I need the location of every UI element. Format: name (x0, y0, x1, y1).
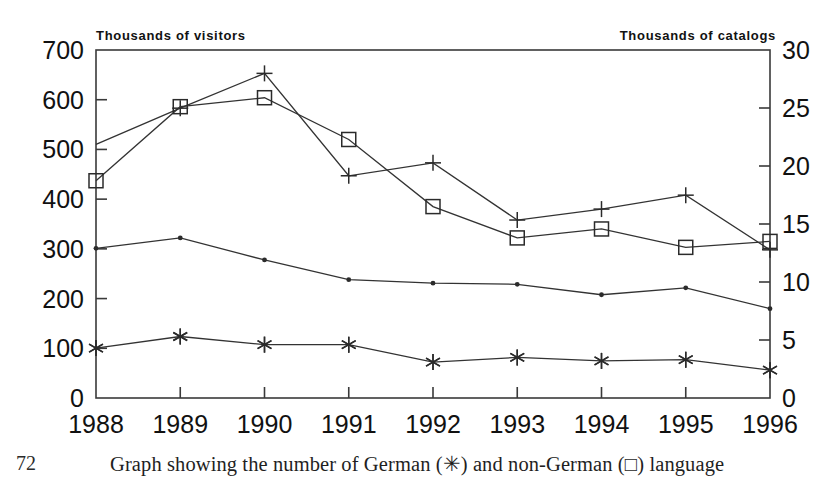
x-tick-label-1989: 1989 (152, 412, 208, 437)
marker-catalogs-dot-1992 (431, 281, 436, 286)
right-tick-label-15: 15 (782, 212, 810, 237)
x-tick-label-1988: 1988 (68, 412, 124, 437)
marker-visitors-plus-1994 (594, 201, 610, 217)
marker-catalogs-dot-1996 (768, 306, 773, 311)
figure-caption: 72 Graph showing the number of German (✳… (0, 452, 838, 483)
marker-catalogs-dot-1994 (599, 292, 604, 297)
right-tick-label-0: 0 (782, 386, 796, 411)
data-series-layer (89, 65, 778, 378)
x-tick-label-1992: 1992 (405, 412, 461, 437)
left-tick-label-700: 700 (42, 38, 84, 63)
x-tick-label-1993: 1993 (489, 412, 545, 437)
left-axis-title: Thousands of visitors (96, 28, 246, 43)
series-catalogs-dot (94, 236, 773, 312)
marker-visitors-plus-1992 (425, 155, 441, 171)
marker-catalogs-dot-1991 (346, 277, 351, 282)
marker-catalogs-dot-1988 (94, 246, 99, 251)
left-axis-ticks (96, 100, 107, 349)
right-axis-title: Thousands of catalogs (620, 28, 776, 43)
x-tick-label-1995: 1995 (658, 412, 714, 437)
figure-container: Thousands of visitors Thousands of catal… (0, 0, 838, 483)
right-axis-ticks (759, 108, 770, 340)
series-visitors-square (89, 91, 777, 255)
marker-catalogs-dot-1990 (262, 258, 267, 263)
marker-visitors-plus-1990 (257, 65, 273, 81)
x-axis-ticks (180, 387, 686, 398)
x-tick-label-1991: 1991 (321, 412, 377, 437)
series-catalogs-asterisk (89, 329, 777, 379)
marker-catalogs-dot-1989 (178, 236, 183, 241)
right-tick-label-10: 10 (782, 270, 810, 295)
right-tick-label-30: 30 (782, 38, 810, 63)
marker-visitors-plus-1991 (341, 168, 357, 184)
plot-frame (96, 50, 770, 398)
left-tick-label-600: 600 (42, 87, 84, 112)
page-number: 72 (16, 452, 36, 475)
x-tick-label-1990: 1990 (237, 412, 293, 437)
line-chart-plot (0, 0, 838, 452)
left-tick-label-400: 400 (42, 187, 84, 212)
x-tick-label-1994: 1994 (574, 412, 630, 437)
series-visitors-plus (96, 65, 778, 257)
left-tick-label-100: 100 (42, 336, 84, 361)
marker-catalogs-dot-1993 (515, 282, 520, 287)
marker-visitors-plus-1996 (762, 242, 778, 258)
left-tick-label-300: 300 (42, 236, 84, 261)
marker-catalogs-dot-1995 (683, 285, 688, 290)
x-tick-label-1996: 1996 (742, 412, 798, 437)
marker-visitors-plus-1993 (509, 212, 525, 228)
left-tick-label-0: 0 (70, 386, 84, 411)
caption-text: Graph showing the number of German (✳) a… (110, 452, 724, 476)
right-tick-label-5: 5 (782, 328, 796, 353)
left-tick-label-500: 500 (42, 137, 84, 162)
left-tick-label-200: 200 (42, 286, 84, 311)
right-tick-label-25: 25 (782, 96, 810, 121)
right-tick-label-20: 20 (782, 154, 810, 179)
marker-visitors-plus-1995 (678, 187, 694, 203)
